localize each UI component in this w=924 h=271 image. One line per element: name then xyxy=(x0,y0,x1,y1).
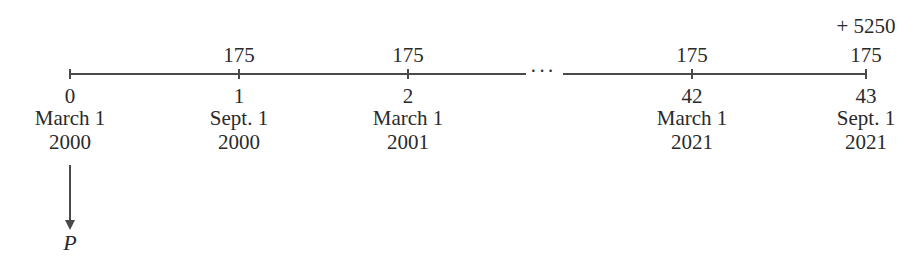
year-label: 2021 xyxy=(845,131,887,153)
date-label: March 1 xyxy=(373,107,444,129)
date-label: March 1 xyxy=(657,107,728,129)
tick-0 xyxy=(69,69,71,79)
down-arrow-icon xyxy=(69,165,71,223)
balloon-payment-label: + 5250 xyxy=(836,15,895,37)
date-label: Sept. 1 xyxy=(837,107,895,129)
arrowhead-icon xyxy=(65,220,75,230)
year-label: 2001 xyxy=(387,131,429,153)
period-label: 0 xyxy=(65,85,76,107)
payment-label: 175 xyxy=(392,44,424,66)
payment-label: 175 xyxy=(676,44,708,66)
date-label: Sept. 1 xyxy=(210,107,268,129)
year-label: 2021 xyxy=(671,131,713,153)
present-value-label: P xyxy=(63,230,76,256)
date-label: March 1 xyxy=(35,107,106,129)
timeline-line-right xyxy=(563,73,867,75)
timeline-line-left xyxy=(70,73,526,75)
year-label: 2000 xyxy=(49,131,91,153)
period-label: 1 xyxy=(234,85,245,107)
payment-label: 175 xyxy=(850,44,882,66)
tick-43 xyxy=(865,69,867,79)
period-label: 43 xyxy=(856,85,877,107)
year-label: 2000 xyxy=(218,131,260,153)
tick-42 xyxy=(691,69,693,79)
tick-2 xyxy=(407,69,409,79)
tick-1 xyxy=(238,69,240,79)
period-label: 42 xyxy=(682,85,703,107)
payment-label: 175 xyxy=(223,44,255,66)
period-label: 2 xyxy=(403,85,414,107)
ellipsis: ··· xyxy=(530,60,556,83)
